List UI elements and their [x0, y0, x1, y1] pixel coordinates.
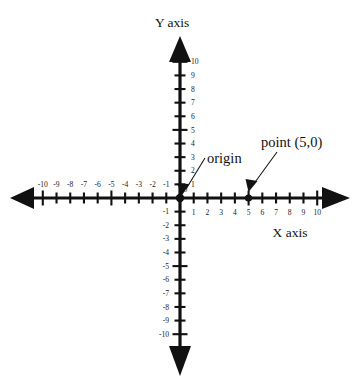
x-axis-left-arrow-icon	[10, 187, 34, 209]
y-tick-label--4: -4	[163, 248, 170, 257]
x-tick-label--1: -1	[163, 180, 170, 189]
point-leader-arrow-icon	[246, 179, 258, 192]
y-tick-label--3: -3	[163, 234, 170, 243]
y-tick-label--6: -6	[163, 275, 170, 284]
point-5-0-marker	[245, 194, 252, 201]
y-tick-label-4: 4	[191, 139, 195, 148]
y-axis-down-arrow-icon	[169, 346, 191, 376]
x-tick-label--6: -6	[95, 180, 102, 189]
x-tick-label--8: -8	[67, 180, 74, 189]
x-tick-label--4: -4	[122, 180, 129, 189]
y-tick-label-3: 3	[191, 153, 195, 162]
y-axis-up-arrow-icon	[169, 36, 191, 62]
y-tick-label-9: 9	[191, 71, 195, 80]
x-tick-label--10: -10	[38, 180, 48, 189]
y-tick-label-6: 6	[191, 112, 195, 121]
x-tick-label--3: -3	[136, 180, 143, 189]
x-tick-label-7: 7	[274, 208, 278, 217]
x-tick-label-4: 4	[233, 208, 237, 217]
zero-label: 0	[184, 185, 188, 194]
y-tick-label--10: -10	[159, 330, 169, 339]
x-tick-label-3: 3	[219, 208, 223, 217]
y-tick-label--7: -7	[163, 289, 170, 298]
y-tick-label--2: -2	[163, 221, 170, 230]
x-tick-label-2: 2	[206, 208, 210, 217]
point-annotation-label: point (5,0)	[261, 134, 322, 151]
y-tick-label-2: 2	[191, 166, 195, 175]
x-tick-label-5: 5	[247, 208, 251, 217]
x-tick-label-1: 1	[192, 208, 196, 217]
x-tick-label--9: -9	[53, 180, 60, 189]
x-axis-right-arrow-icon	[322, 187, 350, 209]
y-tick-label-7: 7	[191, 98, 195, 107]
y-tick-label--8: -8	[163, 303, 170, 312]
x-tick-label--5: -5	[108, 180, 115, 189]
x-tick-label-6: 6	[260, 208, 264, 217]
y-tick-label--9: -9	[163, 316, 170, 325]
y-tick-label--1: -1	[163, 207, 170, 216]
y-tick-label--5: -5	[163, 262, 170, 271]
x-tick-label--7: -7	[81, 180, 88, 189]
y-tick-label-1: 1	[191, 180, 195, 189]
x-tick-label--2: -2	[149, 180, 156, 189]
coordinate-plane-svg: -10-9-8-7-6-5-4-3-2-112345678910-10-9-8-…	[0, 0, 358, 386]
origin-point-marker	[176, 194, 184, 202]
x-tick-label-9: 9	[302, 208, 306, 217]
origin-annotation-label: origin	[207, 150, 242, 166]
y-axis-title: Y axis	[155, 15, 189, 30]
x-tick-label-8: 8	[288, 208, 292, 217]
y-tick-label-10: 10	[191, 57, 199, 66]
coordinate-plane-figure: -10-9-8-7-6-5-4-3-2-112345678910-10-9-8-…	[0, 0, 358, 386]
y-tick-label-5: 5	[191, 126, 195, 135]
x-tick-label-10: 10	[313, 208, 321, 217]
point-leader-line	[253, 152, 277, 185]
x-axis-title: X axis	[273, 225, 308, 240]
y-tick-label-8: 8	[191, 85, 195, 94]
